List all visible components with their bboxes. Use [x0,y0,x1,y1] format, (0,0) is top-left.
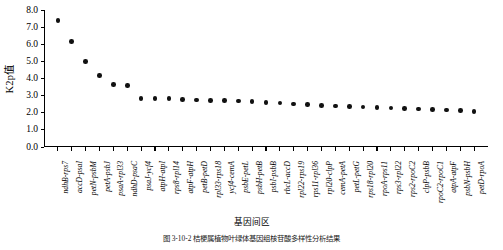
x-tick-mark [168,147,169,151]
x-tick-mark [460,147,461,151]
y-tick-mark [41,112,45,113]
data-point [83,59,88,64]
x-tick-mark [363,147,364,151]
figure-caption: 图 3-10-2 桔梗属植物叶绿体基因组核苷酸多样性分析结果 [0,233,503,244]
data-point [139,96,144,101]
x-tick-label: rps2-rpoC2 [408,161,417,197]
x-tick-label: petA-psbJ [103,161,112,192]
x-tick-mark [376,147,377,151]
y-axis-label: K2p值 [2,19,18,139]
x-tick-label: petL-petG [352,161,361,192]
x-tick-mark [99,147,100,151]
y-tick-label: 7.0 [26,20,38,35]
x-tick-mark [252,147,253,151]
x-tick-label: atpH-atpI [158,161,167,191]
x-tick-mark [321,147,322,151]
data-point [222,98,227,103]
x-tick-label: rpl20-clpP [325,161,334,194]
data-point [347,104,352,109]
chart-figure: K2p值 0.01.02.03.04.05.06.07.08.0 ndhB-rp… [0,0,503,250]
data-point [69,39,74,44]
y-tick-mark [41,10,45,11]
y-tick-label: 1.0 [26,122,38,137]
y-tick-mark [41,78,45,79]
x-tick-label: clpP-psbB [422,161,431,193]
x-tick-label: rbcL-accD [283,161,292,194]
data-point [375,105,380,110]
x-tick-mark [418,147,419,151]
x-tick-mark [154,147,155,151]
x-tick-label: atpA-atpF [449,161,458,193]
data-point [208,98,213,103]
plot-area: K2p值 0.01.02.03.04.05.06.07.08.0 ndhB-rp… [44,10,488,147]
x-tick-label: psbE-petL [241,161,250,193]
x-tick-label: ycf4-cemA [227,161,236,194]
x-tick-label: psbN-psbH [463,161,472,196]
x-tick-label: atpF-atpH [186,161,195,194]
x-tick-mark [71,147,72,151]
x-tick-label: petN-psbM [89,161,98,195]
y-tick-label: 4.0 [26,71,38,86]
data-point [333,104,338,109]
y-tick-label: 8.0 [26,3,38,18]
x-axis-title: 基因间区 [0,216,503,228]
x-tick-label: psaJ-ycf4 [144,161,153,191]
data-point [125,83,130,88]
x-tick-label: ndhB-rps7 [61,161,70,194]
y-tick-mark [41,44,45,45]
x-tick-mark [210,147,211,151]
y-tick-mark [41,27,45,28]
data-point [180,97,185,102]
x-tick-label: rps18-rpl20 [366,161,375,198]
x-tick-label: accD-psaI [75,161,84,193]
x-tick-label: petD-rpoA [477,161,486,194]
x-tick-label: psaA-rpl33 [116,161,125,196]
x-tick-label: ndhD-psaC [130,161,139,196]
x-tick-mark [182,147,183,151]
x-tick-mark [238,147,239,151]
x-tick-label: petB-petD [200,161,209,193]
data-point [402,106,407,111]
y-tick-label: 2.0 [26,105,38,120]
y-tick-label: 6.0 [26,37,38,52]
x-tick-mark [224,147,225,151]
data-point [56,18,61,23]
data-point [305,102,310,107]
x-tick-mark [349,147,350,151]
x-tick-mark [127,147,128,151]
x-tick-mark [265,147,266,151]
data-point [111,82,116,87]
x-tick-mark [474,147,475,151]
data-point [167,96,172,101]
x-tick-mark [432,147,433,151]
x-tick-mark [390,147,391,151]
y-tick-mark [41,129,45,130]
data-point [236,99,241,104]
x-tick-mark [113,147,114,151]
x-tick-mark [141,147,142,151]
x-tick-mark [307,147,308,151]
x-tick-label: rps3-rpl22 [394,161,403,194]
x-tick-label: rps11-rpl36 [311,161,320,197]
y-tick-mark [41,61,45,62]
data-point [430,107,435,112]
x-tick-label: psbH-petB [255,161,264,194]
y-tick-label: 3.0 [26,88,38,103]
y-tick-label: 5.0 [26,54,38,69]
data-point [319,103,324,108]
x-tick-mark [57,147,58,151]
x-tick-label: rps8-rpl14 [172,161,181,194]
x-tick-label: rpl33-rps18 [214,161,223,198]
data-point [472,109,477,114]
x-tick-label: rpoC2-rpoC1 [436,161,445,203]
data-point [264,100,269,105]
data-point [291,102,296,107]
x-tick-label: rpoA-rps11 [380,161,389,196]
x-tick-mark [404,147,405,151]
x-tick-mark [446,147,447,151]
data-point [458,108,463,113]
data-point [416,107,421,112]
y-tick-mark [41,147,45,148]
y-tick-mark [41,95,45,96]
x-tick-mark [293,147,294,151]
